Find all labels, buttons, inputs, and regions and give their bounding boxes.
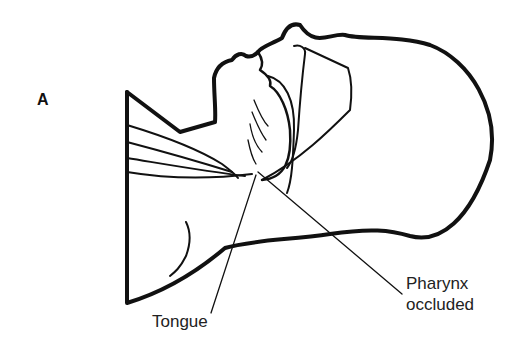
tongue-hatch-2 bbox=[252, 112, 266, 140]
tongue-hatch-3 bbox=[250, 124, 262, 152]
pharynx-occluded-label: Pharynx occluded bbox=[406, 273, 474, 315]
tongue-label: Tongue bbox=[152, 311, 208, 332]
mouth-interior bbox=[258, 52, 290, 180]
pharynx-leader-line bbox=[258, 172, 402, 294]
tongue-hatch-4 bbox=[248, 140, 256, 164]
pharynx-label-line2: occluded bbox=[406, 294, 474, 315]
neck-outline bbox=[127, 24, 492, 303]
throat-contour bbox=[170, 222, 190, 276]
cheek-line bbox=[262, 48, 351, 180]
face-profile bbox=[127, 52, 258, 132]
pharynx-label-line1: Pharynx bbox=[406, 273, 474, 294]
